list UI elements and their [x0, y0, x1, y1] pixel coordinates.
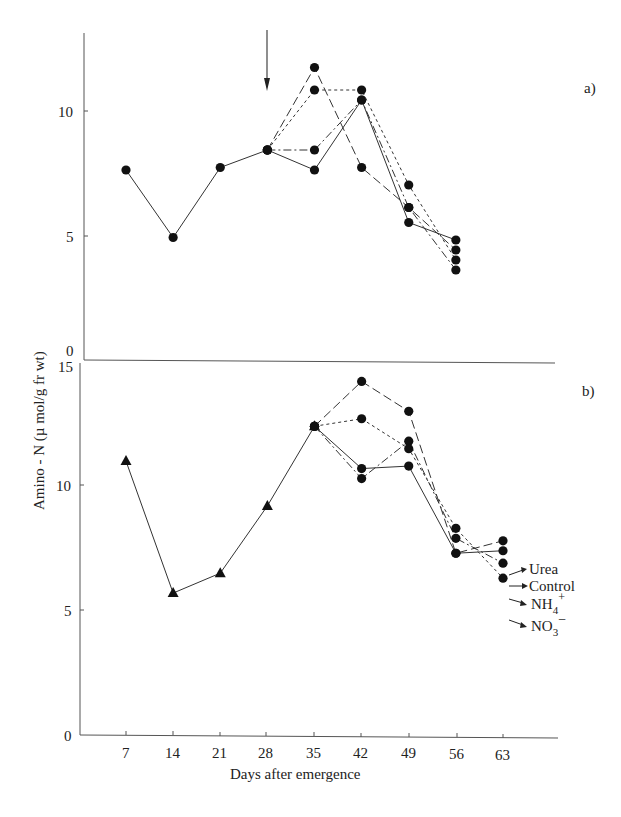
- triangle-marker: [168, 587, 179, 597]
- series-layer: [121, 63, 508, 597]
- x-tick-35: 35: [306, 745, 321, 761]
- x-tick-63: 63: [495, 747, 510, 763]
- circle-marker: [357, 85, 366, 94]
- panel-label-a: a): [584, 80, 596, 97]
- circle-marker: [216, 163, 225, 172]
- legend-no3: NO3−: [509, 612, 566, 638]
- x-axis: [80, 735, 558, 738]
- circle-marker: [263, 145, 272, 154]
- panel-label-b: b): [582, 383, 595, 400]
- legend-label-urea: Urea: [529, 561, 558, 577]
- circle-marker: [404, 218, 413, 227]
- arrow-down-icon: [264, 30, 270, 91]
- circle-marker: [498, 546, 507, 555]
- triangle-marker: [262, 500, 273, 510]
- circle-marker: [404, 407, 413, 416]
- circle-marker: [404, 461, 413, 470]
- circle-marker: [498, 536, 507, 545]
- circle-marker: [451, 255, 460, 264]
- circle-marker: [357, 464, 366, 473]
- legend-urea: Urea: [509, 561, 558, 577]
- y-tick-a-0: 0: [66, 343, 74, 359]
- circle-marker: [357, 377, 366, 386]
- y-tick-b-10: 10: [56, 478, 71, 494]
- series-line-urea: [267, 68, 456, 251]
- circle-marker: [121, 165, 130, 174]
- x-tick-7: 7: [122, 745, 130, 761]
- x-tick-14: 14: [165, 745, 181, 761]
- panel-divider: [84, 360, 555, 363]
- triangle-marker: [215, 567, 226, 577]
- y-tick-b-5: 5: [64, 603, 72, 619]
- circle-marker: [310, 422, 319, 431]
- circle-marker: [404, 203, 413, 212]
- circle-marker: [451, 549, 460, 558]
- circle-marker: [451, 235, 460, 244]
- circle-marker: [451, 524, 460, 533]
- y-tick-b-0: 0: [64, 728, 72, 744]
- circle-marker: [404, 180, 413, 189]
- legend-label-no3: NO3−: [531, 612, 566, 638]
- circle-marker: [310, 85, 319, 94]
- circle-marker: [451, 534, 460, 543]
- triangle-marker: [121, 455, 132, 465]
- circle-marker: [357, 474, 366, 483]
- circle-marker: [404, 444, 413, 453]
- y-axis-title: Amino - N (µ mol/g fr wt): [31, 351, 48, 510]
- y-tick-a-10: 10: [58, 104, 73, 120]
- circle-marker: [169, 233, 178, 242]
- legend-control: Control: [509, 578, 575, 594]
- circle-marker: [357, 95, 366, 104]
- x-tick-21: 21: [212, 745, 227, 761]
- circle-marker: [357, 163, 366, 172]
- circle-marker: [310, 165, 319, 174]
- y-tick-b-15: 15: [58, 359, 73, 375]
- circle-marker: [498, 559, 507, 568]
- legend: Urea Control NH4+ NO3−: [509, 561, 575, 638]
- x-axis-title: Days after emergence: [230, 766, 361, 782]
- legend-label-control: Control: [529, 578, 575, 594]
- circle-marker: [357, 414, 366, 423]
- circle-marker: [451, 265, 460, 274]
- amino-n-chart: 10 5 0 15 10 5 0 7 14 21 28 35 42 49 56 …: [0, 0, 621, 817]
- circle-marker: [451, 245, 460, 254]
- circle-marker: [310, 145, 319, 154]
- circle-marker: [310, 63, 319, 72]
- y-tick-a-5: 5: [66, 229, 74, 245]
- x-tick-56: 56: [449, 746, 465, 762]
- x-tick-28: 28: [258, 745, 273, 761]
- x-tick-49: 49: [401, 745, 416, 761]
- series-line-no3-: [267, 90, 456, 260]
- x-tick-42: 42: [353, 745, 368, 761]
- circle-marker: [498, 574, 507, 583]
- series-line-nh4-: [267, 100, 456, 270]
